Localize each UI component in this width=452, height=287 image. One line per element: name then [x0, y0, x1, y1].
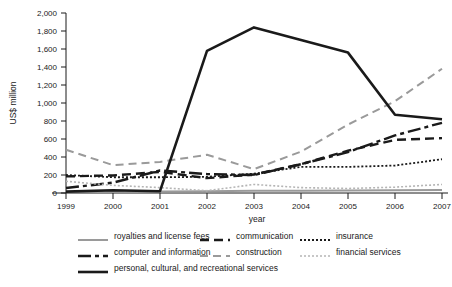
x-tick-label: 2003	[245, 202, 263, 211]
legend-swatch-icon-personal-cultural-and-recreational-services	[78, 263, 108, 273]
legend-label-financial-services: financial services	[336, 247, 401, 257]
x-tick-label: 2007	[433, 202, 451, 211]
y-tick-label: 1,400	[37, 63, 58, 72]
x-tick-label: 2005	[339, 202, 357, 211]
series-line-computer-and-information	[66, 123, 442, 188]
legend-row: computer and informationconstructionfina…	[0, 244, 452, 260]
legend-swatch-icon-insurance	[300, 231, 330, 241]
x-tick-label: 2006	[386, 202, 404, 211]
legend-label-insurance: insurance	[336, 231, 373, 241]
y-axis-title: US$ million	[8, 81, 18, 124]
legend-row: royalties and license feescommunicationi…	[0, 228, 452, 244]
y-tick-label: 1,800	[37, 27, 58, 36]
legend-item-personal-cultural-and-recreational-services[interactable]: personal, cultural, and recreational ser…	[78, 260, 278, 276]
y-tick-label: 1,200	[37, 81, 58, 90]
legend-label-construction: construction	[236, 247, 282, 257]
legend-item-royalties-and-license-fees[interactable]: royalties and license fees	[78, 228, 209, 244]
data-series-group	[66, 27, 442, 192]
legend-label-computer-and-information: computer and information	[114, 247, 210, 257]
y-tick-label: 600	[44, 135, 58, 144]
x-tick-label: 2002	[198, 202, 216, 211]
legend-swatch-icon-financial-services	[300, 247, 330, 257]
x-axis-title: year	[249, 214, 266, 224]
x-tick-label: 2004	[292, 202, 310, 211]
legend-item-insurance[interactable]: insurance	[300, 228, 373, 244]
x-tick-label: 1999	[57, 202, 75, 211]
legend-item-communication[interactable]: communication	[200, 228, 293, 244]
y-tick-label: 1,600	[37, 45, 58, 54]
legend-label-personal-cultural-and-recreational-services: personal, cultural, and recreational ser…	[114, 263, 278, 273]
line-chart: 02004006008001,0001,2001,4001,6001,8002,…	[0, 0, 452, 287]
x-tick-label: 2000	[104, 202, 122, 211]
x-tick-label: 2001	[151, 202, 169, 211]
legend-swatch-icon-computer-and-information	[78, 247, 108, 257]
legend-swatch-icon-communication	[200, 231, 230, 241]
legend-row: personal, cultural, and recreational ser…	[0, 260, 452, 276]
y-axis-ticks: 02004006008001,0001,2001,4001,6001,8002,…	[37, 9, 66, 198]
legend-label-communication: communication	[236, 231, 293, 241]
legend-item-computer-and-information[interactable]: computer and information	[78, 244, 210, 260]
plot-area: 02004006008001,0001,2001,4001,6001,8002,…	[0, 0, 452, 230]
y-tick-label: 400	[44, 153, 58, 162]
series-line-personal-cultural-and-recreational-services	[66, 27, 442, 191]
x-axis-ticks: 199920002001200220032004200520062007	[57, 193, 451, 211]
legend-item-construction[interactable]: construction	[200, 244, 282, 260]
y-tick-label: 1,000	[37, 99, 58, 108]
y-tick-label: 2,000	[37, 9, 58, 18]
legend-swatch-icon-construction	[200, 247, 230, 257]
legend-swatch-icon-royalties-and-license-fees	[78, 231, 108, 241]
y-tick-label: 200	[44, 171, 58, 180]
y-tick-label: 800	[44, 117, 58, 126]
legend-label-royalties-and-license-fees: royalties and license fees	[114, 231, 209, 241]
series-line-construction	[66, 69, 442, 169]
chart-legend: royalties and license feescommunicationi…	[0, 228, 452, 287]
series-line-communication	[66, 138, 442, 178]
legend-item-financial-services[interactable]: financial services	[300, 244, 401, 260]
